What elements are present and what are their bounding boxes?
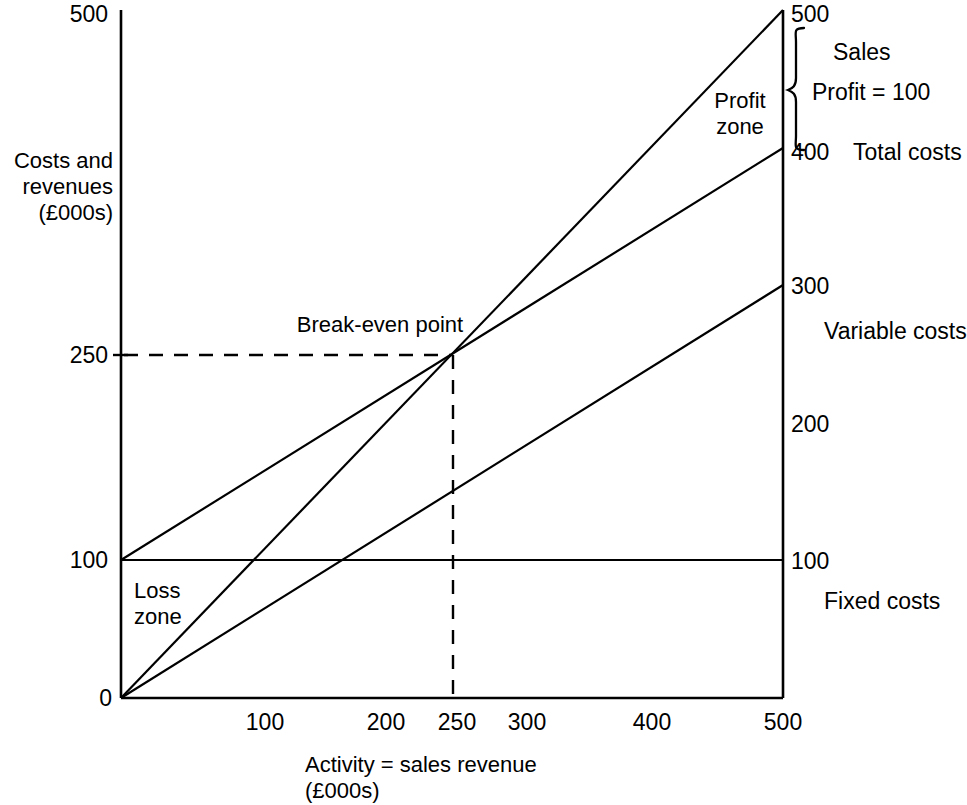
series-label-sales: Sales [833,38,891,66]
loss-zone-label-line1: Loss [134,578,180,605]
series-label-total-costs: Total costs [853,138,962,166]
x-tick-label-300: 300 [508,708,546,736]
x-tick-label-200: 200 [367,708,405,736]
y-tick-label-right-100: 100 [791,547,829,575]
break-even-point-label: Break-even point [297,312,463,339]
y-tick-label-right-500: 500 [791,0,829,28]
loss-zone-label-line2: zone [134,604,182,631]
x-tick-label-100: 100 [246,708,284,736]
y-tick-label-left-100: 100 [70,546,108,574]
profit-bracket-brace [788,28,804,150]
x-tick-label-400: 400 [633,708,671,736]
x-tick-label-500: 500 [764,708,802,736]
series-label-fixed-costs: Fixed costs [824,587,940,615]
x-axis-title-line1: Activity = sales revenue [305,752,537,779]
y-axis-title-line1: Costs and [14,148,113,175]
y-tick-label-left-500: 500 [70,0,108,28]
series-label-variable-costs: Variable costs [824,317,967,345]
x-axis-title-line2: (£000s) [305,778,380,805]
y-tick-label-left-250: 250 [70,341,108,369]
x-tick-label-250: 250 [438,708,476,736]
y-tick-label-right-200: 200 [791,410,829,438]
profit-zone-label-line2: zone [716,114,764,141]
y-tick-label-right-400: 400 [791,138,829,166]
y-tick-label-left-0: 0 [99,684,112,712]
profit-bracket-label: Profit = 100 [812,78,930,106]
y-axis-title-line2: revenues [22,174,113,201]
profit-zone-label-line1: Profit [714,88,765,115]
y-axis-title-line3: (£000s) [38,200,113,227]
y-tick-label-right-300: 300 [791,272,829,300]
